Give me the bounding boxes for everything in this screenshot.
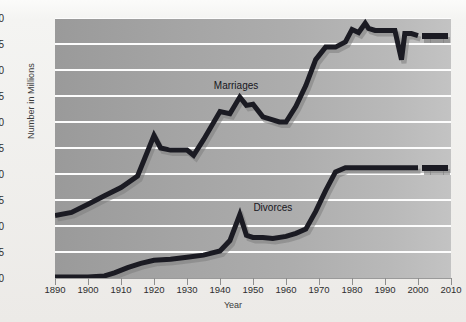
x-tick-label: 2010 bbox=[431, 284, 466, 295]
y-tick-label: 1.75 bbox=[0, 91, 4, 102]
series-line bbox=[55, 23, 418, 215]
plot-area: MarriagesDivorces bbox=[55, 18, 451, 278]
projection-marker bbox=[441, 165, 448, 171]
x-axis-title: Year bbox=[0, 300, 466, 310]
chart-figure: Number in Millions .00.25.50.751.01.251.… bbox=[0, 0, 466, 322]
y-tick-label: 1.25 bbox=[0, 143, 4, 154]
projection-marker bbox=[441, 33, 448, 39]
y-tick-label: .25 bbox=[0, 247, 4, 258]
y-tick-label: 2.25 bbox=[0, 39, 4, 50]
y-tick-label: .00 bbox=[0, 273, 4, 284]
series-shadow bbox=[58, 171, 421, 278]
series-annotation: Divorces bbox=[253, 202, 292, 213]
y-tick-label: .50 bbox=[0, 221, 4, 232]
y-tick-label: 1.50 bbox=[0, 117, 4, 128]
series-annotation: Marriages bbox=[214, 80, 258, 91]
y-tick-label: 2.0 bbox=[0, 65, 4, 76]
series-lines bbox=[55, 18, 451, 278]
y-tick-label: 1.0 bbox=[0, 169, 4, 180]
y-tick-label: 2.50 bbox=[0, 13, 4, 24]
y-tick-label: .75 bbox=[0, 195, 4, 206]
series-line bbox=[55, 168, 418, 277]
